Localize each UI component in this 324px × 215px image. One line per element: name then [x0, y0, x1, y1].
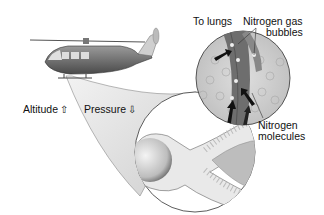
down-arrow-icon: ⇩ [128, 104, 136, 115]
up-arrow-icon: ⇧ [60, 104, 68, 115]
pressure-label: Pressure⇩ [84, 104, 136, 115]
to-lungs-label: To lungs [193, 16, 232, 27]
altitude-label: Altitude⇧ [23, 104, 68, 115]
bubbles-label: bubbles [266, 27, 303, 38]
pressure-text: Pressure [84, 103, 126, 115]
altitude-text: Altitude [23, 103, 58, 115]
helicopter-icon [30, 28, 159, 78]
molecules-label: molecules [258, 131, 305, 142]
